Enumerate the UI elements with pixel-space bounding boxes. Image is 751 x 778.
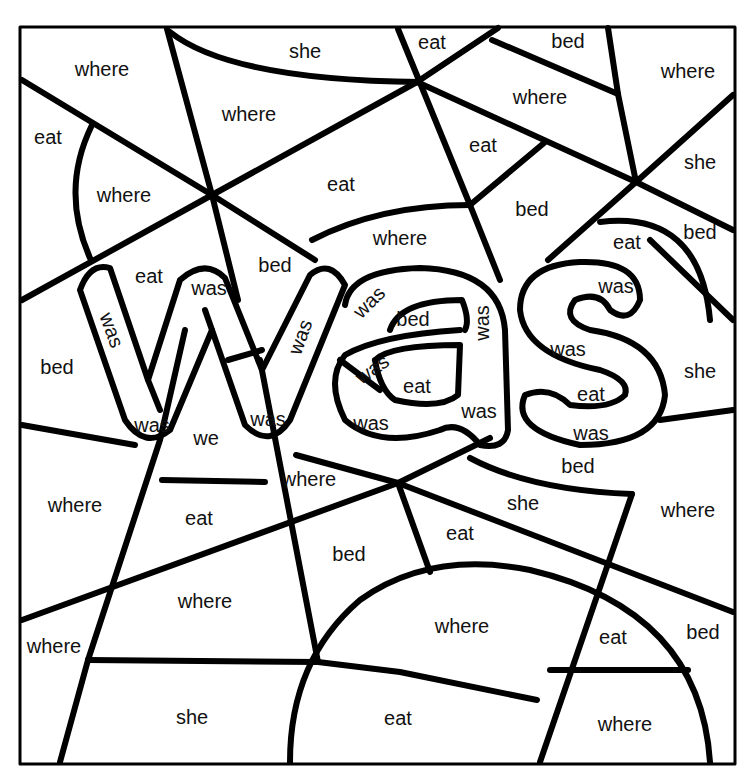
region-label-was[interactable]: was (573, 423, 609, 443)
region-label-eat[interactable]: eat (418, 32, 446, 52)
region-label-she[interactable]: she (176, 707, 208, 727)
line-art (0, 0, 751, 778)
region-label-where[interactable]: where (48, 495, 102, 515)
region-label-where[interactable]: where (661, 500, 715, 520)
region-label-was[interactable]: was (550, 339, 586, 359)
region-label-bed[interactable]: bed (40, 357, 73, 377)
region-label-eat[interactable]: eat (384, 708, 412, 728)
region-label-eat[interactable]: eat (135, 266, 163, 286)
region-label-bed[interactable]: bed (258, 255, 291, 275)
region-label-she[interactable]: she (507, 493, 539, 513)
region-label-where[interactable]: where (178, 591, 232, 611)
region-label-bed[interactable]: bed (683, 222, 716, 242)
region-label-eat[interactable]: eat (577, 384, 605, 404)
region-label-bed[interactable]: bed (515, 199, 548, 219)
region-label-where[interactable]: where (75, 59, 129, 79)
region-label-where[interactable]: where (513, 87, 567, 107)
region-label-was[interactable]: was (353, 413, 389, 433)
region-label-where[interactable]: where (373, 228, 427, 248)
region-label-we[interactable]: we (193, 428, 219, 448)
region-label-was[interactable]: was (461, 401, 497, 421)
region-label-was[interactable]: was (250, 409, 286, 429)
region-label-she[interactable]: she (289, 41, 321, 61)
region-label-where[interactable]: where (97, 185, 151, 205)
region-label-where[interactable]: where (222, 104, 276, 124)
region-label-where[interactable]: where (435, 616, 489, 636)
letter-s-outline (520, 262, 665, 445)
region-label-eat[interactable]: eat (599, 627, 627, 647)
region-label-bed[interactable]: bed (396, 309, 429, 329)
region-label-was[interactable]: was (134, 415, 170, 435)
region-label-eat[interactable]: eat (34, 127, 62, 147)
region-label-bed[interactable]: bed (686, 622, 719, 642)
region-label-was[interactable]: was (598, 276, 634, 296)
region-label-eat[interactable]: eat (446, 523, 474, 543)
region-label-eat[interactable]: eat (469, 135, 497, 155)
region-label-where[interactable]: where (598, 714, 652, 734)
coloring-page: wheresheeatbedwhereeatwherewherewhereeat… (0, 0, 751, 778)
region-label-where[interactable]: where (282, 469, 336, 489)
region-label-was[interactable]: was (472, 305, 492, 341)
region-label-where[interactable]: where (27, 636, 81, 656)
region-label-eat[interactable]: eat (327, 174, 355, 194)
region-label-eat[interactable]: eat (185, 508, 213, 528)
region-label-bed[interactable]: bed (561, 456, 594, 476)
region-label-bed[interactable]: bed (551, 31, 584, 51)
region-label-was[interactable]: was (191, 278, 227, 298)
region-label-she[interactable]: she (684, 361, 716, 381)
region-label-where[interactable]: where (661, 61, 715, 81)
region-label-eat[interactable]: eat (613, 232, 641, 252)
region-label-she[interactable]: she (684, 152, 716, 172)
region-label-eat[interactable]: eat (403, 376, 431, 396)
region-label-bed[interactable]: bed (332, 544, 365, 564)
